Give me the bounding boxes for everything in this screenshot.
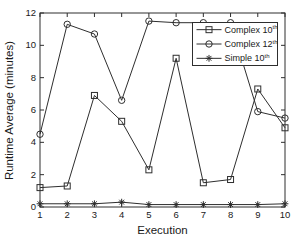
x-tick-label: 2 — [65, 209, 70, 220]
x-tick-label: 1 — [37, 209, 42, 220]
y-tick-label: 4 — [31, 136, 36, 147]
asterisk-marker-icon — [64, 200, 71, 207]
x-tick-label: 5 — [146, 209, 151, 220]
legend: Complex 10thComplex 12thSimple 10th — [193, 23, 278, 66]
y-tick-label: 6 — [31, 104, 36, 115]
plot-canvas: 12345678910024681012Complex 10thComplex … — [0, 0, 302, 247]
x-tick-label: 3 — [92, 209, 97, 220]
y-tick-label: 0 — [31, 201, 36, 212]
asterisk-marker-icon — [282, 200, 289, 207]
legend-label: Simple 10th — [225, 53, 270, 64]
asterisk-marker-icon — [118, 199, 125, 206]
asterisk-marker-icon — [254, 201, 261, 208]
asterisk-marker-icon — [91, 200, 98, 207]
y-tick-label: 12 — [25, 7, 36, 18]
x-tick-label: 4 — [119, 209, 124, 220]
x-tick-label: 7 — [201, 209, 206, 220]
y-tick-label: 8 — [31, 72, 36, 83]
y-axis-label: Runtime Average (minutes) — [3, 14, 18, 208]
x-tick-label: 6 — [173, 209, 178, 220]
y-tick-label: 2 — [31, 169, 36, 180]
asterisk-marker-icon — [206, 55, 213, 62]
asterisk-marker-icon — [37, 200, 44, 207]
x-axis-label: Execution — [40, 224, 285, 240]
asterisk-marker-icon — [200, 201, 207, 208]
asterisk-marker-icon — [173, 201, 180, 208]
asterisk-marker-icon — [227, 201, 234, 208]
runtime-average-chart: 12345678910024681012Complex 10thComplex … — [0, 0, 302, 247]
y-tick-label: 10 — [25, 39, 36, 50]
x-tick-label: 8 — [228, 209, 233, 220]
legend-label: Complex 12th — [225, 39, 278, 50]
legend-label: Complex 10th — [225, 24, 278, 35]
asterisk-marker-icon — [145, 201, 152, 208]
x-tick-label: 10 — [280, 209, 291, 220]
x-tick-label: 9 — [255, 209, 260, 220]
